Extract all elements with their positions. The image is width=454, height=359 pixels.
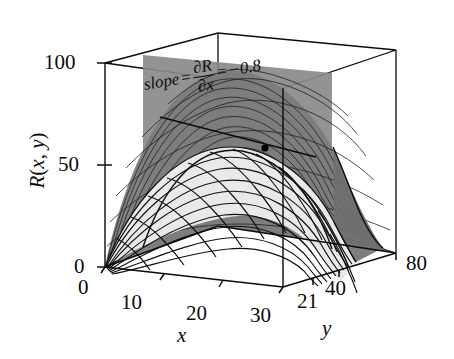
y-axis-title: y: [322, 318, 331, 339]
x-tick-label-0: 0: [78, 277, 89, 298]
z-axis-title-comma: ,: [25, 149, 49, 160]
x-tick-10: [160, 274, 164, 280]
y-tick-label-80: 80: [406, 253, 427, 274]
z-axis-title-close-paren: ): [25, 133, 49, 140]
z-axis-title-y: y: [25, 140, 49, 149]
x-axis-title: x: [177, 325, 186, 346]
z-tick-label-0: 0: [74, 256, 85, 277]
marked-point: [261, 144, 268, 151]
y-tick-label-21: 21: [297, 291, 318, 312]
partial-derivative-denominator: ∂x: [194, 75, 217, 96]
figure-3d-surface-plot: 100 50 0 R(x, y) 0 10 20 30 x 21 40 80 y…: [0, 0, 454, 359]
x-tick-30: [279, 287, 283, 293]
z-axis-title-x: x: [25, 159, 49, 168]
partial-derivative-fraction: ∂R∂x: [191, 56, 218, 96]
z-tick-label-100: 100: [44, 52, 76, 73]
x-tick-label-20: 20: [186, 303, 207, 324]
slope-annotation-word: slope: [142, 69, 181, 94]
z-axis-title-r: R: [25, 176, 49, 189]
x-tick-20: [219, 280, 223, 287]
x-tick-label-10: 10: [121, 292, 142, 313]
slope-annotation-equals-2: =: [215, 61, 228, 81]
z-axis-title-open-paren: (: [25, 169, 49, 176]
x-tick-label-30: 30: [250, 305, 271, 326]
slope-annotation-equals: =: [180, 67, 193, 87]
z-axis-title: R(x, y): [27, 111, 48, 211]
z-tick-label-50: 50: [58, 154, 79, 175]
y-tick-label-40: 40: [325, 278, 346, 299]
x-tick-0: [101, 267, 105, 273]
slope-annotation-value: −0.8: [227, 56, 262, 80]
